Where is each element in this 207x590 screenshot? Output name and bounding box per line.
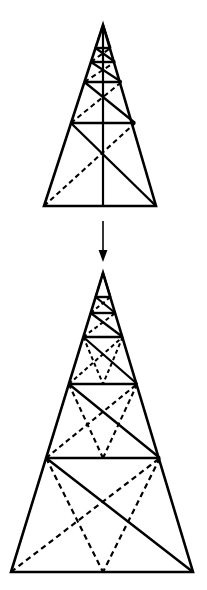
figure-root (0, 0, 207, 590)
lower-diagonal-solid-0 (103, 273, 110, 297)
upper-diagonal-dashed-0 (96, 25, 104, 48)
lower-fan-4-right (103, 384, 137, 458)
upper-diagonal-solid-0 (103, 25, 111, 48)
lower-triangle-outline (11, 273, 193, 572)
lower-diagonal-dashed-4 (46, 384, 137, 458)
arrow-head-icon (99, 250, 108, 262)
upper-truss-triangle (44, 25, 156, 206)
downward-transform-arrow (99, 221, 108, 262)
lower-diagonal-dashed-5 (11, 458, 160, 572)
lower-fan-5-left (46, 458, 103, 572)
lower-truss-triangle (11, 273, 193, 572)
lower-diagonal-solid-5 (46, 458, 193, 572)
truss-figure-svg (0, 0, 207, 590)
lower-fan-5-right (103, 458, 160, 572)
upper-diagonal-solid-3 (84, 82, 135, 123)
lower-fan-3-left (83, 337, 103, 384)
lower-fan-3-right (103, 337, 123, 384)
lower-fan-4-left (69, 384, 103, 458)
